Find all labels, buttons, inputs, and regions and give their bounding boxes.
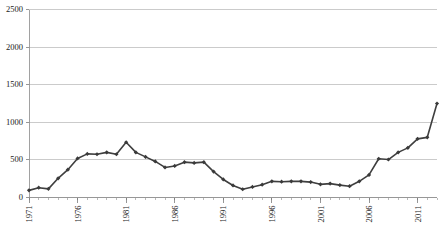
data-point-marker [318,182,322,186]
x-tick-label: 1971 [24,206,34,223]
x-tick-label: 1986 [170,206,180,223]
line-chart: 05001000150020002500 1971197619811986199… [0,0,441,250]
data-point-marker [250,185,254,189]
x-tick-label: 1981 [121,206,131,223]
data-point-marker [338,183,342,187]
y-tick-label: 1000 [6,117,23,127]
x-tick-label: 1976 [73,206,83,223]
y-tick-label: 500 [10,154,23,164]
data-point-marker [37,186,41,190]
x-tick-label: 2011 [413,206,423,223]
data-point-marker [279,180,283,184]
gridlines-group [29,10,437,198]
data-point-marker [241,187,245,191]
data-point-marker [289,179,293,183]
y-tick-label: 2000 [6,42,23,52]
data-point-marker [27,188,31,192]
y-tick-label: 2500 [6,4,23,14]
data-series-markers [27,101,439,192]
chart-container: 05001000150020002500 1971197619811986199… [0,0,441,250]
data-point-marker [270,179,274,183]
y-tick-label: 1500 [6,79,23,89]
data-series-line [29,104,437,191]
x-axis-tick-labels: 197119761981198619911996200120062011 [24,206,423,223]
y-tick-label: 0 [19,192,23,202]
x-tick-label: 2006 [364,206,374,223]
y-axis-tick-labels: 05001000150020002500 [6,4,29,202]
data-point-marker [425,135,429,139]
x-tick-label: 1991 [218,206,228,223]
x-tick-label: 2001 [316,206,326,223]
data-point-marker [173,164,177,168]
data-point-marker [95,152,99,156]
data-point-marker [182,160,186,164]
x-tick-label: 1996 [267,206,277,223]
data-point-marker [309,180,313,184]
data-point-marker [192,161,196,165]
data-point-marker [299,179,303,183]
data-point-marker [435,101,439,105]
data-point-marker [260,183,264,187]
data-point-marker [328,181,332,185]
data-point-marker [105,150,109,154]
